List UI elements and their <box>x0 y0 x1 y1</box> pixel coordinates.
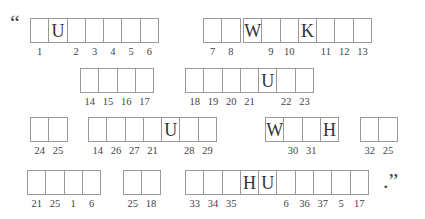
letter-cell[interactable]: 25 <box>123 170 142 195</box>
cell-letter: K <box>299 20 316 42</box>
letter-cell[interactable]: K <box>298 18 317 43</box>
letter-cell[interactable]: U <box>258 170 277 195</box>
word-group: 14262721U2829 <box>88 117 217 142</box>
word-group: 18192021U2223 <box>185 68 314 93</box>
letter-cell[interactable]: 6 <box>140 18 159 43</box>
letter-cell[interactable]: 8 <box>221 18 240 43</box>
letter-cell[interactable]: 22 <box>276 68 295 93</box>
cell-number: 17 <box>347 198 372 209</box>
letter-cell[interactable]: 21 <box>143 117 162 142</box>
cell-letter: H <box>321 119 338 141</box>
letter-cell[interactable]: 14 <box>80 68 99 93</box>
cell-letter: U <box>259 70 276 92</box>
letter-cell[interactable]: H <box>320 117 339 142</box>
letter-cell[interactable]: W <box>243 18 262 43</box>
letter-cell[interactable]: 17 <box>135 68 154 93</box>
letter-cell[interactable]: 19 <box>203 68 222 93</box>
cell-letter: U <box>49 20 66 42</box>
letter-cell[interactable]: 25 <box>378 117 397 142</box>
letter-cell[interactable]: 11 <box>316 18 335 43</box>
cell-number: 25 <box>45 145 70 156</box>
letter-cell[interactable]: U <box>161 117 180 142</box>
letter-cell[interactable]: 6 <box>82 170 101 195</box>
letter-cell[interactable]: 37 <box>313 170 332 195</box>
open-quote-mark: “ <box>10 12 20 34</box>
letter-cell[interactable]: 25 <box>48 117 67 142</box>
cell-letter: W <box>266 119 283 141</box>
letter-cell[interactable]: 23 <box>295 68 314 93</box>
cell-number: 31 <box>299 145 324 156</box>
cell-letter: H <box>241 172 258 194</box>
cell-letter: W <box>244 20 261 42</box>
cell-number: 13 <box>350 46 375 57</box>
word-group: 14151617 <box>80 68 154 93</box>
letter-cell[interactable]: 31 <box>302 117 321 142</box>
letter-cell[interactable]: 10 <box>280 18 299 43</box>
letter-cell[interactable]: 13 <box>353 18 372 43</box>
cell-number: 23 <box>292 96 317 107</box>
letter-cell[interactable]: 5 <box>331 170 350 195</box>
cell-number: 6 <box>137 46 162 57</box>
letter-cell[interactable]: 1 <box>64 170 83 195</box>
word-group: 2425 <box>30 117 68 142</box>
word-group: W910K111213 <box>243 18 372 43</box>
cell-number: 18 <box>138 198 163 209</box>
letter-cell[interactable]: 21 <box>27 170 46 195</box>
cell-number: 35 <box>219 198 244 209</box>
letter-cell[interactable]: 27 <box>125 117 144 142</box>
cell-number: 17 <box>132 96 157 107</box>
letter-cell[interactable]: 9 <box>261 18 280 43</box>
letter-cell[interactable]: 24 <box>30 117 49 142</box>
cell-number: 6 <box>79 198 104 209</box>
letter-cell[interactable]: 16 <box>117 68 136 93</box>
letter-cell[interactable]: 12 <box>334 18 353 43</box>
letter-cell[interactable]: W <box>265 117 284 142</box>
cell-number: 25 <box>375 145 400 156</box>
letter-cell[interactable]: 14 <box>88 117 107 142</box>
letter-cell[interactable]: 15 <box>98 68 117 93</box>
letter-cell[interactable]: 21 <box>240 68 259 93</box>
letter-cell[interactable]: U <box>48 18 67 43</box>
letter-cell[interactable]: 25 <box>45 170 64 195</box>
cell-number: 29 <box>195 145 220 156</box>
word-group: 78 <box>203 18 241 43</box>
cell-number: 21 <box>140 145 165 156</box>
cell-number: 1 <box>27 46 52 57</box>
letter-cell[interactable]: 34 <box>203 170 222 195</box>
letter-cell[interactable]: 3 <box>85 18 104 43</box>
letter-cell[interactable]: 4 <box>103 18 122 43</box>
letter-cell[interactable]: 2 <box>67 18 86 43</box>
letter-cell[interactable]: 29 <box>198 117 217 142</box>
letter-cell[interactable]: 6 <box>276 170 295 195</box>
letter-cell[interactable]: 32 <box>360 117 379 142</box>
word-group: 333435HU63637517 <box>185 170 369 195</box>
word-group: W3031H <box>265 117 339 142</box>
letter-cell[interactable]: 26 <box>106 117 125 142</box>
word-group: 2518 <box>123 170 161 195</box>
letter-cell[interactable]: 30 <box>283 117 302 142</box>
letter-cell[interactable]: 36 <box>295 170 314 195</box>
letter-cell[interactable]: H <box>240 170 259 195</box>
word-group: 212516 <box>27 170 101 195</box>
letter-cell[interactable]: U <box>258 68 277 93</box>
word-group: 3225 <box>360 117 398 142</box>
cell-letter: U <box>259 172 276 194</box>
letter-cell[interactable]: 18 <box>141 170 160 195</box>
letter-cell[interactable]: 1 <box>30 18 49 43</box>
letter-cell[interactable]: 5 <box>121 18 140 43</box>
cell-number: 21 <box>237 96 262 107</box>
letter-cell[interactable]: 17 <box>350 170 369 195</box>
word-group: 1U23456 <box>30 18 159 43</box>
cell-number: 8 <box>218 46 243 57</box>
cell-letter: U <box>162 119 179 141</box>
letter-cell[interactable]: 20 <box>222 68 241 93</box>
letter-cell[interactable]: 35 <box>222 170 241 195</box>
cell-number: 10 <box>277 46 302 57</box>
close-quote-mark: .” <box>383 170 398 192</box>
letter-cell[interactable]: 28 <box>179 117 198 142</box>
letter-cell[interactable]: 33 <box>185 170 204 195</box>
letter-cell[interactable]: 18 <box>185 68 204 93</box>
letter-cell[interactable]: 7 <box>203 18 222 43</box>
